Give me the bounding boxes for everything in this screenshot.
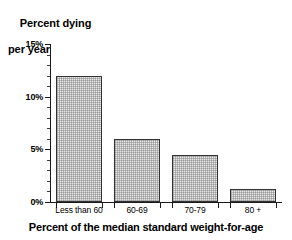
y-axis-tick-label: 5% bbox=[30, 145, 43, 154]
y-axis-tick-label: 0% bbox=[30, 198, 43, 207]
x-axis-category-label: 60-69 bbox=[108, 205, 166, 215]
y-axis-title-line1: Percent dying bbox=[20, 17, 91, 29]
bar bbox=[172, 155, 218, 202]
plot-area bbox=[50, 44, 282, 202]
y-axis-tick-label: 15% bbox=[26, 40, 43, 49]
bar bbox=[230, 189, 276, 202]
y-axis-tick-label: 10% bbox=[26, 93, 43, 102]
bar bbox=[56, 76, 102, 202]
x-axis-category-label: 80 + bbox=[224, 205, 282, 215]
x-axis-category-label: Less than 60 bbox=[50, 205, 108, 215]
y-axis-major-tick bbox=[45, 202, 50, 203]
bar bbox=[114, 139, 160, 202]
bar-chart: Percent dying per year 0%5%10%15% Less t… bbox=[0, 0, 292, 240]
x-axis-title: Percent of the median standard weight-fo… bbox=[0, 221, 292, 233]
x-axis-line bbox=[50, 202, 282, 203]
x-axis-category-label: 70-79 bbox=[166, 205, 224, 215]
